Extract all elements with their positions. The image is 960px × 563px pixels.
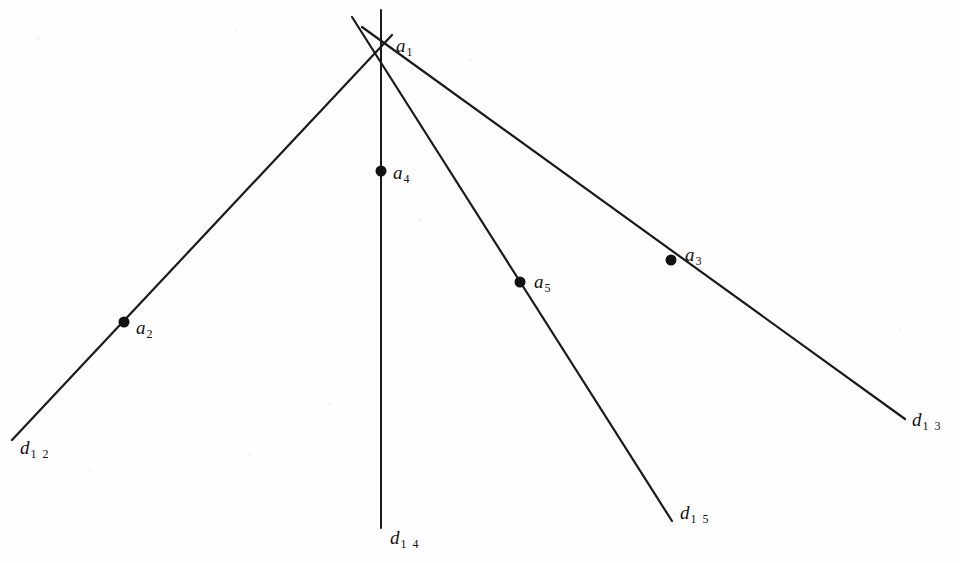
label-d12-base: d xyxy=(20,437,30,458)
lines-group xyxy=(12,10,905,528)
label-a3-base: a xyxy=(685,244,695,265)
label-a2: a2 xyxy=(136,318,154,340)
point-a4 xyxy=(376,166,387,177)
label-d14: d1 4 xyxy=(390,528,420,550)
figure-canvas-root: d1 2d1 3d1 4d1 5a2a3a4a5a1 xyxy=(0,0,960,563)
point-a2 xyxy=(119,317,130,328)
label-d12-subscript: 1 2 xyxy=(30,447,51,461)
label-d13-base: d xyxy=(912,409,922,430)
ray-d12 xyxy=(12,35,392,440)
label-a3-subscript: 3 xyxy=(695,254,704,268)
ray-d13 xyxy=(362,27,905,419)
label-d15-subscript: 1 5 xyxy=(690,512,711,526)
label-a5: a5 xyxy=(534,272,552,294)
label-a2-base: a xyxy=(136,317,146,338)
label-a3: a3 xyxy=(685,245,703,267)
label-a1: a1 xyxy=(396,36,414,58)
label-d12: d1 2 xyxy=(20,438,50,460)
point-a3 xyxy=(666,255,677,266)
label-d15: d1 5 xyxy=(680,503,710,525)
label-a4-base: a xyxy=(393,162,403,183)
label-a1-base: a xyxy=(396,35,406,56)
label-d15-base: d xyxy=(680,502,690,523)
line-figure-svg xyxy=(0,0,960,563)
label-a1-subscript: 1 xyxy=(406,45,415,59)
label-a2-subscript: 2 xyxy=(146,327,155,341)
label-d13: d1 3 xyxy=(912,410,942,432)
label-a4-subscript: 4 xyxy=(403,172,412,186)
label-d14-subscript: 1 4 xyxy=(400,537,421,551)
ray-d15 xyxy=(352,17,672,521)
label-d14-base: d xyxy=(390,527,400,548)
label-a5-subscript: 5 xyxy=(544,281,553,295)
label-a5-base: a xyxy=(534,271,544,292)
label-d13-subscript: 1 3 xyxy=(922,419,943,433)
points-group xyxy=(119,166,677,328)
point-a5 xyxy=(515,277,526,288)
label-a4: a4 xyxy=(393,163,411,185)
